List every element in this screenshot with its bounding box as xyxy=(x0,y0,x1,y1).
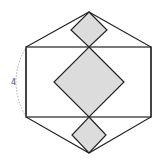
diamond-center xyxy=(54,47,124,117)
dimension-arc xyxy=(16,47,26,117)
diamond-bottom xyxy=(72,117,106,153)
diagram-canvas: 4 xyxy=(0,0,163,163)
dimension-label: 4 xyxy=(11,78,16,87)
geometry-diagram: 4 xyxy=(0,0,163,163)
diamonds-group xyxy=(54,12,124,153)
diamond-top xyxy=(71,12,107,47)
